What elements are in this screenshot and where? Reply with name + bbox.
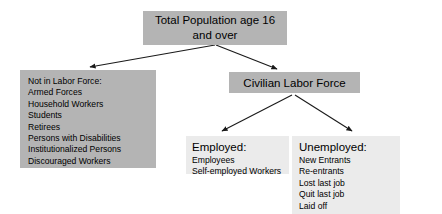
list-item: Persons with Disabilities xyxy=(28,133,156,144)
node-unemployed: Unemployed: New Entrants Re-entrants Los… xyxy=(292,136,400,214)
list-item: Armed Forces xyxy=(28,87,156,98)
edge-total-to-not-in-labor-force xyxy=(90,45,215,67)
list-item: Institutionalized Persons xyxy=(28,144,156,155)
list-item: Retirees xyxy=(28,122,156,133)
list-item: Self-employed Workers xyxy=(192,166,289,177)
list-item: Re-entrants xyxy=(299,166,400,177)
node-total-population-line2: and over xyxy=(155,28,275,43)
list-item: Household Workers xyxy=(28,99,156,110)
node-unemployed-heading: Unemployed: xyxy=(299,140,400,154)
node-not-in-labor-force-heading: Not in Labor Force: xyxy=(28,76,156,87)
list-item: Students xyxy=(28,110,156,121)
node-total-population: Total Population age 16 and over xyxy=(143,11,287,45)
node-civilian-labor-force-label: Civilian Labor Force xyxy=(243,77,345,89)
node-not-in-labor-force: Not in Labor Force: Armed Forces Househo… xyxy=(20,70,156,168)
edge-total-to-civilian-labor-force xyxy=(216,45,277,69)
edge-civilian-to-employed xyxy=(222,95,292,131)
list-item: Discouraged Workers xyxy=(28,156,156,167)
edge-civilian-to-unemployed xyxy=(295,95,352,131)
node-total-population-line1: Total Population age 16 xyxy=(155,13,275,28)
list-item: Quit last job xyxy=(299,189,400,200)
list-item: Laid off xyxy=(299,201,400,212)
list-item: Employees xyxy=(192,155,289,166)
list-item: New Entrants xyxy=(299,155,400,166)
list-item: Lost last job xyxy=(299,178,400,189)
node-civilian-labor-force: Civilian Labor Force xyxy=(229,72,360,93)
node-employed-heading: Employed: xyxy=(192,140,289,154)
node-employed: Employed: Employees Self-employed Worker… xyxy=(186,136,289,174)
labor-force-flowchart: Total Population age 16 and over Not in … xyxy=(0,0,442,214)
